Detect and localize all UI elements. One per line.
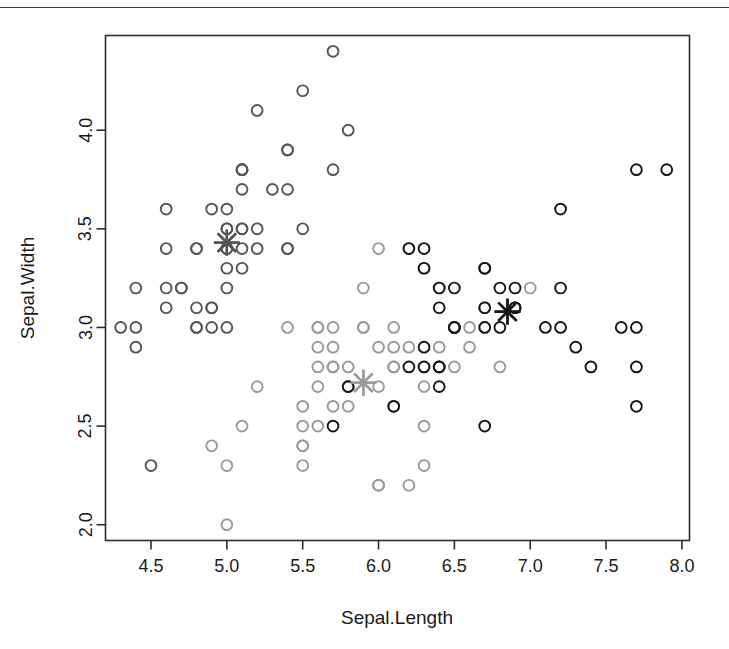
data-point: [161, 283, 172, 294]
data-point: [328, 362, 339, 373]
data-point: [479, 263, 490, 274]
data-point: [464, 322, 475, 333]
center-cluster-2: [350, 370, 376, 396]
data-point: [312, 421, 323, 432]
data-point: [328, 322, 339, 333]
data-point: [252, 105, 263, 116]
data-point: [631, 164, 642, 175]
data-point: [449, 362, 460, 373]
data-point: [237, 223, 248, 234]
data-point: [282, 322, 293, 333]
data-point: [221, 263, 232, 274]
data-point: [434, 302, 445, 313]
y-tick-label: 3.0: [76, 315, 96, 340]
x-axis-title: Sepal.Length: [341, 607, 453, 628]
data-point: [479, 322, 490, 333]
y-tick-label: 2.0: [76, 512, 96, 537]
data-point: [358, 322, 369, 333]
data-point: [570, 342, 581, 353]
data-point: [555, 322, 566, 333]
x-tick-label: 6.0: [366, 556, 391, 576]
data-point: [388, 362, 399, 373]
data-point: [252, 223, 263, 234]
data-point: [631, 401, 642, 412]
data-point: [282, 243, 293, 254]
data-point: [343, 401, 354, 412]
x-tick-label: 4.5: [138, 556, 163, 576]
data-point: [343, 362, 354, 373]
center-cluster-3: [494, 299, 520, 325]
data-point: [176, 283, 187, 294]
data-point: [494, 322, 505, 333]
data-point: [206, 204, 217, 215]
y-tick-label: 4.0: [76, 118, 96, 143]
data-point: [419, 342, 430, 353]
figure-canvas: 4.55.05.56.06.57.07.58.0 2.02.53.03.54.0…: [0, 0, 729, 649]
data-point: [434, 342, 445, 353]
data-point: [328, 46, 339, 57]
scatter-plot: 4.55.05.56.06.57.07.58.0 2.02.53.03.54.0…: [0, 0, 729, 649]
data-point: [312, 342, 323, 353]
data-point: [130, 322, 141, 333]
data-point: [586, 362, 597, 373]
x-tick-label: 7.5: [594, 556, 619, 576]
data-point: [540, 322, 551, 333]
data-point: [388, 342, 399, 353]
data-point: [464, 342, 475, 353]
data-point: [206, 322, 217, 333]
data-point: [221, 460, 232, 471]
data-point: [434, 362, 445, 373]
data-point: [661, 164, 672, 175]
data-point: [419, 362, 430, 373]
data-point: [434, 283, 445, 294]
data-point: [312, 362, 323, 373]
data-point: [419, 243, 430, 254]
data-point: [221, 283, 232, 294]
data-point: [328, 421, 339, 432]
x-tick-label: 5.5: [290, 556, 315, 576]
data-point: [130, 342, 141, 353]
y-axis-ticks: [97, 130, 106, 525]
data-point: [297, 460, 308, 471]
data-point: [297, 85, 308, 96]
y-axis-tick-labels: 2.02.53.03.54.0: [76, 118, 96, 538]
plot-frame: [106, 36, 690, 541]
data-point: [373, 342, 384, 353]
series-cluster-1: [115, 46, 353, 471]
data-point: [555, 283, 566, 294]
data-point: [146, 460, 157, 471]
data-point: [328, 342, 339, 353]
data-point: [237, 243, 248, 254]
data-point: [449, 322, 460, 333]
data-point: [206, 302, 217, 313]
data-point: [312, 381, 323, 392]
data-point: [494, 362, 505, 373]
data-point: [282, 145, 293, 156]
data-point: [237, 184, 248, 195]
data-points-layer: [115, 46, 672, 530]
data-point: [297, 440, 308, 451]
data-point: [191, 322, 202, 333]
data-point: [479, 302, 490, 313]
cluster-centers-layer: [214, 230, 521, 396]
data-point: [328, 401, 339, 412]
data-point: [282, 184, 293, 195]
data-point: [206, 440, 217, 451]
data-point: [161, 204, 172, 215]
x-tick-label: 7.0: [518, 556, 543, 576]
data-point: [221, 204, 232, 215]
data-point: [312, 322, 323, 333]
data-point: [358, 283, 369, 294]
data-point: [388, 401, 399, 412]
x-tick-label: 5.0: [214, 556, 239, 576]
data-point: [403, 362, 414, 373]
data-point: [237, 421, 248, 432]
series-cluster-2: [206, 243, 535, 530]
data-point: [616, 322, 627, 333]
data-point: [267, 184, 278, 195]
data-point: [191, 302, 202, 313]
data-point: [479, 421, 490, 432]
data-point: [555, 204, 566, 215]
data-point: [434, 381, 445, 392]
data-point: [373, 480, 384, 491]
